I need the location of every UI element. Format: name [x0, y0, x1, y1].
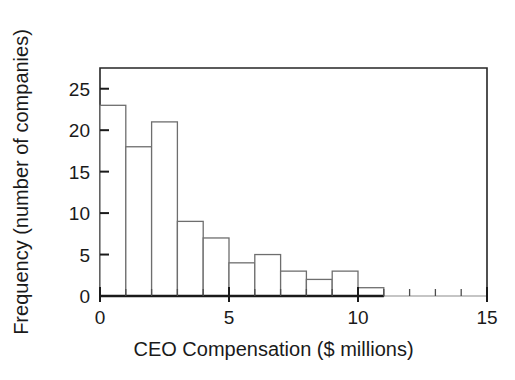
x-tick-label: 10 [347, 307, 368, 328]
y-axis-title: Frequency (number of companies) [10, 29, 32, 335]
y-tick-label: 20 [69, 120, 90, 141]
y-tick-label: 15 [69, 162, 90, 183]
x-tick-label: 0 [95, 307, 106, 328]
y-tick-label: 10 [69, 203, 90, 224]
histogram-figure: 0510150510152025CEO Compensation ($ mill… [0, 0, 515, 380]
histogram-bar [229, 263, 255, 296]
chart-canvas: 0510150510152025CEO Compensation ($ mill… [0, 0, 515, 380]
histogram-bar [255, 255, 281, 296]
histogram-bar [100, 105, 126, 296]
y-tick-label: 0 [79, 286, 90, 307]
histogram-bar [281, 271, 307, 296]
histogram-bar [177, 221, 203, 296]
histogram-bar [306, 279, 332, 296]
x-tick-label: 5 [224, 307, 235, 328]
x-tick-label: 15 [476, 307, 497, 328]
histogram-bar [152, 122, 178, 296]
histogram-bar [126, 147, 152, 296]
histogram-bar [203, 238, 229, 296]
y-tick-label: 5 [79, 245, 90, 266]
y-tick-label: 25 [69, 79, 90, 100]
histogram-bar [332, 271, 358, 296]
x-axis-title: CEO Compensation ($ millions) [133, 338, 413, 360]
